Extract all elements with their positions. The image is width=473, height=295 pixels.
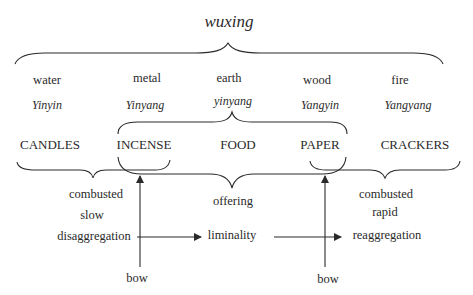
item-candles: CANDLES bbox=[20, 138, 80, 151]
reaggregation-label: reaggregation bbox=[353, 229, 422, 242]
left-slow-label: slow bbox=[80, 209, 104, 222]
element-wood: wood bbox=[303, 74, 331, 87]
right-combusted-label: combusted bbox=[359, 188, 413, 201]
yinyang-brace bbox=[118, 112, 347, 134]
left-combusted-label: combusted bbox=[69, 188, 123, 201]
offering-label: offering bbox=[213, 195, 253, 208]
yinyang-label-metal: Yinyang bbox=[126, 99, 164, 111]
yinyang-label-earth: yinyang bbox=[214, 95, 252, 107]
item-paper: PAPER bbox=[300, 138, 339, 151]
yinyang-label-fire: Yangyang bbox=[385, 99, 432, 111]
element-fire: fire bbox=[391, 74, 408, 87]
wuxing-brace bbox=[15, 43, 443, 64]
element-earth: earth bbox=[217, 72, 242, 85]
bow-right-label: bow bbox=[317, 273, 339, 286]
liminality-label: liminality bbox=[208, 229, 257, 242]
middle-lower-brace bbox=[118, 157, 346, 188]
yinyang-label-wood: Yangyin bbox=[301, 99, 339, 111]
bow-left-label: bow bbox=[126, 272, 148, 285]
item-incense: INCENSE bbox=[117, 138, 172, 151]
right-lower-brace bbox=[310, 161, 460, 178]
right-rapid-label: rapid bbox=[372, 206, 398, 219]
diagram-title: wuxing bbox=[204, 13, 253, 30]
left-lower-brace bbox=[17, 160, 170, 178]
disaggregation-label: disaggregation bbox=[57, 230, 131, 243]
item-crackers: CRACKERS bbox=[381, 138, 450, 151]
yinyang-label-water: Yinyin bbox=[32, 99, 62, 111]
item-food: FOOD bbox=[220, 138, 255, 151]
element-metal: metal bbox=[133, 72, 161, 85]
element-water: water bbox=[33, 74, 61, 87]
wuxing-diagram: wuxing water metal earth wood fire Yinyi… bbox=[0, 0, 473, 295]
